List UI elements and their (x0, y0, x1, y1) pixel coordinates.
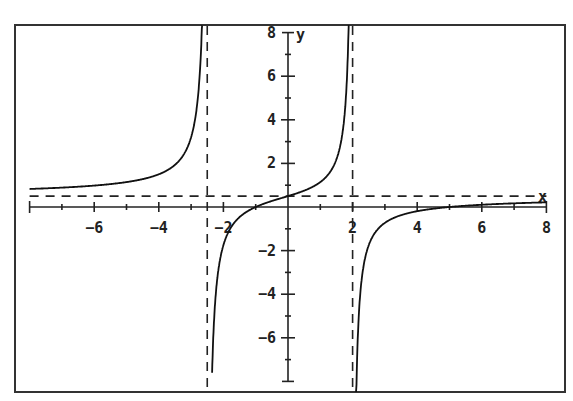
x-tick-label: 8 (542, 219, 551, 237)
y-tick-label: 4 (267, 111, 276, 129)
y-axis-label: y (296, 26, 305, 44)
x-tick-label: 6 (477, 219, 486, 237)
y-tick-label: −6 (258, 329, 276, 347)
x-tick-label: −6 (85, 219, 103, 237)
y-tick-label: 8 (267, 24, 276, 42)
function-graph: −6−4−224688642−2−4−6 x y (0, 0, 573, 401)
x-tick-label: −4 (150, 219, 168, 237)
y-tick-label: −4 (258, 285, 276, 303)
x-tick-label: 4 (413, 219, 422, 237)
y-tick-label: 2 (267, 154, 276, 172)
y-tick-label: −2 (258, 242, 276, 260)
x-tick-label: 2 (348, 219, 357, 237)
y-tick-label: 6 (267, 67, 276, 85)
